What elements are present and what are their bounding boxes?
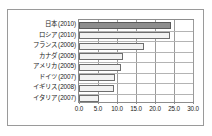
x-tick-label: 10.0: [111, 104, 123, 114]
category-label: アメリカ (2005): [33, 61, 76, 72]
x-axis-tick-labels: 0.05.010.015.020.025.030.0: [78, 104, 194, 116]
category-label: ドイツ (2007): [39, 72, 76, 83]
x-tick-label: 0.0: [75, 104, 83, 114]
category-label: イギリス (2008): [33, 82, 76, 93]
x-tick-label: 20.0: [149, 104, 161, 114]
category-axis-labels: 日本 (2010)ロシア (2010)フランス (2006)カナダ (2005)…: [8, 19, 78, 103]
category-label: フランス (2006): [33, 40, 76, 51]
x-tick-label: 15.0: [130, 104, 142, 114]
x-tick-label: 5.0: [94, 104, 102, 114]
category-label: カナダ (2005): [39, 51, 76, 62]
bar[interactable]: [79, 43, 144, 50]
bar-row: [79, 31, 195, 42]
bar[interactable]: [79, 22, 171, 29]
plot-area: [78, 19, 194, 103]
category-label: ロシア (2010): [39, 30, 76, 41]
plot-wrapper: 日本 (2010)ロシア (2010)フランス (2006)カナダ (2005)…: [8, 10, 203, 125]
bar[interactable]: [79, 64, 121, 71]
bar-row: [79, 94, 195, 105]
bar-row: [79, 73, 195, 84]
chart-frame: 日本 (2010)ロシア (2010)フランス (2006)カナダ (2005)…: [7, 9, 204, 126]
bar-row: [79, 20, 195, 31]
x-tick-label: 25.0: [168, 104, 180, 114]
category-label: 日本 (2010): [45, 19, 76, 30]
bar[interactable]: [79, 74, 115, 81]
x-tick-label: 30.0: [187, 104, 199, 114]
bar-row: [79, 52, 195, 63]
bar-row: [79, 62, 195, 73]
bar-row: [79, 83, 195, 94]
bar[interactable]: [79, 95, 99, 102]
bar[interactable]: [79, 53, 123, 60]
bar[interactable]: [79, 85, 114, 92]
bar[interactable]: [79, 32, 170, 39]
category-label: イタリア (2007): [33, 93, 76, 104]
bar-row: [79, 41, 195, 52]
